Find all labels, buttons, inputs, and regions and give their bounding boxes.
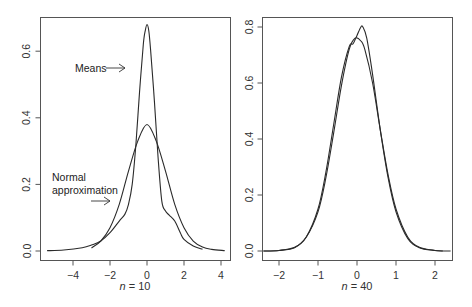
annotation-means-label: Means: [75, 62, 107, 74]
series-group: [47, 25, 225, 251]
series-group: [263, 26, 450, 251]
annotation-normal-label-line2: approximation: [52, 184, 118, 196]
y-tick-label: 0.4: [243, 132, 255, 147]
y-tick-label: 0.6: [243, 76, 255, 91]
arrow-right-icon: [91, 197, 110, 205]
y-tick-label: 0.0: [243, 244, 255, 259]
x-axis-label: n = 40: [342, 280, 373, 292]
panel-n40: −2−1012 0.00.20.40.60.8 n = 40: [243, 18, 453, 293]
x-axis-label: n = 10: [120, 280, 151, 292]
y-tick-label: 0.2: [243, 188, 255, 203]
x-tick-label: −2: [273, 269, 285, 281]
arrow-right-icon: [106, 64, 125, 72]
x-tick-label: 0: [144, 269, 150, 281]
y-axis: 0.00.20.40.60.8: [243, 20, 263, 259]
series-line-means: [263, 26, 442, 251]
x-axis: −2−1012: [273, 261, 438, 281]
annotation-normal: Normal approximation: [52, 171, 118, 205]
x-tick-label: −4: [67, 269, 79, 281]
panel-n10: −4−2024 0.00.20.40.6 n = 10 Means Normal…: [21, 18, 231, 293]
x-tick-label: 2: [181, 269, 187, 281]
x-tick-label: −2: [104, 269, 116, 281]
annotation-normal-label-line1: Normal: [52, 171, 86, 183]
x-axis: −4−2024: [67, 261, 224, 281]
x-tick-label: 0: [354, 269, 360, 281]
series-line-normal-approximation: [263, 38, 450, 251]
y-tick-label: 0.0: [21, 244, 33, 259]
plot-frame: [41, 18, 231, 261]
x-tick-label: 4: [218, 269, 224, 281]
annotation-means: Means: [75, 62, 125, 74]
y-axis: 0.00.20.40.6: [21, 44, 41, 259]
plot-frame: [263, 18, 453, 261]
chart-figure: −4−2024 0.00.20.40.6 n = 10 Means Normal…: [0, 0, 472, 307]
x-tick-label: −1: [312, 269, 324, 281]
x-tick-label: 2: [432, 269, 438, 281]
y-tick-label: 0.8: [243, 20, 255, 35]
y-tick-label: 0.6: [21, 44, 33, 59]
y-tick-label: 0.2: [21, 177, 33, 192]
x-tick-label: 1: [393, 269, 399, 281]
y-tick-label: 0.4: [21, 110, 33, 125]
